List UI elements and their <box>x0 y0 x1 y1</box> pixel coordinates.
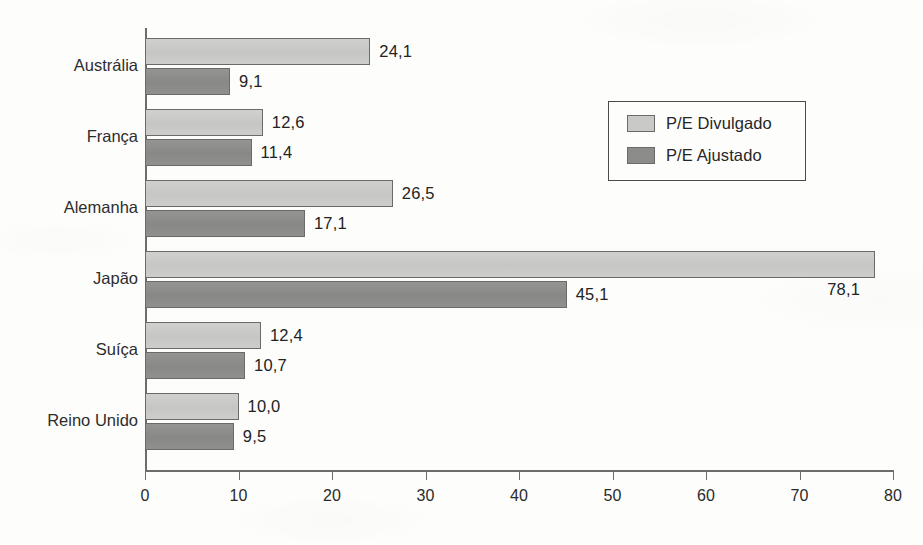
x-tick-mark <box>332 471 333 480</box>
bar-value-label: 10,0 <box>248 397 281 416</box>
x-tick-label: 80 <box>873 487 913 505</box>
bar-ajustado <box>145 281 567 308</box>
legend-item-1: P/E Ajustado <box>627 146 762 165</box>
bar-value-label: 12,6 <box>272 113 305 132</box>
legend-item-0: P/E Divulgado <box>627 114 772 133</box>
category-label: Austrália <box>5 56 138 75</box>
legend-label-0: P/E Divulgado <box>666 114 772 133</box>
x-tick-mark <box>239 471 240 480</box>
bar-value-label: 12,4 <box>270 326 303 345</box>
bar-divulgado <box>145 180 393 207</box>
bar-divulgado <box>145 38 370 65</box>
bar-value-label: 10,7 <box>254 356 287 375</box>
bar-value-label: 17,1 <box>314 214 347 233</box>
bar-value-label: 78,1 <box>827 280 860 299</box>
bar-ajustado <box>145 68 230 95</box>
bar-ajustado <box>145 210 305 237</box>
bar-value-label: 11,4 <box>261 143 293 162</box>
x-tick-mark <box>893 471 894 480</box>
legend-swatch-icon-divulgado <box>627 115 655 132</box>
x-tick-label: 20 <box>312 487 352 505</box>
x-tick-label: 0 <box>125 487 165 505</box>
x-tick-label: 10 <box>219 487 259 505</box>
x-tick-label: 30 <box>406 487 446 505</box>
x-tick-mark <box>145 471 146 480</box>
chart-legend: P/E Divulgado P/E Ajustado <box>608 101 806 181</box>
bar-chart: 01020304050607080 AustráliaFrançaAlemanh… <box>0 0 923 545</box>
bar-value-label: 9,1 <box>239 72 263 91</box>
bar-divulgado <box>145 393 239 420</box>
bar-divulgado <box>145 109 263 136</box>
x-tick-label: 50 <box>593 487 633 505</box>
x-tick-label: 70 <box>780 487 820 505</box>
x-tick-label: 40 <box>499 487 539 505</box>
bar-value-label: 45,1 <box>576 285 609 304</box>
bar-value-label: 9,5 <box>243 427 267 446</box>
category-label: Reino Unido <box>5 411 138 430</box>
x-tick-label: 60 <box>686 487 726 505</box>
legend-swatch-icon-ajustado <box>627 147 655 164</box>
category-label: Japão <box>5 269 138 288</box>
x-tick-mark <box>613 471 614 480</box>
bar-ajustado <box>145 139 252 166</box>
bar-ajustado <box>145 352 245 379</box>
bar-divulgado <box>145 322 261 349</box>
x-tick-mark <box>426 471 427 480</box>
bar-value-label: 24,1 <box>379 42 412 61</box>
category-label: Alemanha <box>5 198 138 217</box>
bar-ajustado <box>145 423 234 450</box>
x-tick-mark <box>706 471 707 480</box>
bar-value-label: 26,5 <box>402 184 435 203</box>
legend-label-1: P/E Ajustado <box>666 146 762 165</box>
x-tick-mark <box>519 471 520 480</box>
bar-divulgado <box>145 251 875 278</box>
x-tick-mark <box>800 471 801 480</box>
category-label: França <box>5 127 138 146</box>
category-label: Suíça <box>5 340 138 359</box>
